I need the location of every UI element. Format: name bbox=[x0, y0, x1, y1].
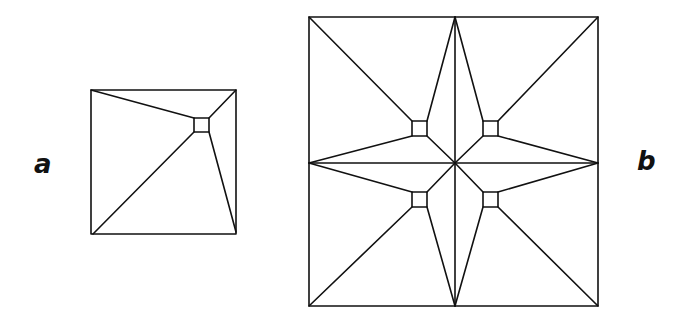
figure-a-label: a bbox=[34, 151, 52, 177]
figure-b-line bbox=[427, 207, 455, 306]
figure-a-line bbox=[93, 132, 194, 234]
figure-b-line bbox=[309, 17, 412, 121]
figure-b-line bbox=[455, 136, 483, 163]
figure-a-line bbox=[209, 90, 236, 118]
figure-a-inner-square bbox=[194, 118, 209, 132]
figure-b-inner-square bbox=[483, 121, 498, 136]
figure-b-line bbox=[498, 163, 598, 192]
figure-b bbox=[309, 17, 598, 306]
figure-b-line bbox=[455, 163, 483, 192]
figure-b-line bbox=[309, 207, 412, 306]
figure-b-inner-square bbox=[483, 192, 498, 207]
figure-b-line bbox=[455, 207, 483, 306]
figure-b-line bbox=[427, 136, 455, 163]
diagram-canvas bbox=[0, 0, 689, 323]
figure-b-line bbox=[498, 17, 598, 121]
figure-b-label: b bbox=[637, 148, 656, 174]
figure-b-line bbox=[309, 163, 412, 192]
figure-b-line bbox=[427, 17, 455, 121]
figure-a bbox=[91, 90, 236, 234]
figure-a-line bbox=[91, 90, 194, 118]
figure-a-line bbox=[209, 132, 236, 232]
figure-b-inner-square bbox=[412, 192, 427, 207]
figure-b-inner-square bbox=[412, 121, 427, 136]
figure-b-line bbox=[309, 136, 412, 163]
figure-b-line bbox=[427, 163, 455, 192]
figure-b-line bbox=[498, 207, 598, 306]
figure-b-line bbox=[455, 17, 483, 121]
figure-b-line bbox=[498, 136, 598, 163]
